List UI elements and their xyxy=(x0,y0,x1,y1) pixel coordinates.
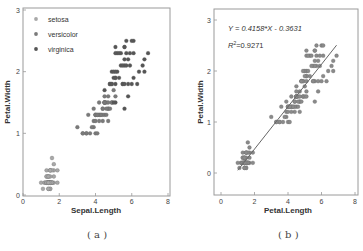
data-point xyxy=(305,49,309,53)
y-tick-label: 2 xyxy=(16,68,20,75)
data-point xyxy=(301,69,305,73)
data-point-setosa xyxy=(56,181,60,185)
data-point-virginica xyxy=(108,82,112,86)
data-point xyxy=(305,90,309,94)
data-point-virginica xyxy=(114,45,118,49)
data-point xyxy=(316,90,320,94)
data-point-virginica xyxy=(119,51,123,55)
data-point xyxy=(310,64,314,68)
data-point xyxy=(310,54,314,58)
data-point-versicolor xyxy=(85,131,89,135)
data-point xyxy=(320,79,324,83)
data-point xyxy=(294,90,298,94)
data-point-virginica xyxy=(110,70,114,74)
data-point-versicolor xyxy=(104,113,108,117)
data-point xyxy=(243,166,247,170)
data-point-versicolor xyxy=(112,88,116,92)
y-tick-label: 0 xyxy=(207,170,211,177)
data-point-versicolor xyxy=(86,113,90,117)
panel-b-x-axis-label: Petal.Length xyxy=(264,206,312,215)
data-point xyxy=(298,95,302,99)
data-point-virginica xyxy=(112,76,116,80)
legend-marker-setosa xyxy=(34,17,38,21)
data-point xyxy=(279,105,283,109)
data-point xyxy=(298,110,302,114)
y-tick-label: 1 xyxy=(16,130,20,137)
data-point xyxy=(281,120,285,124)
data-point-virginica xyxy=(146,51,150,55)
data-point-versicolor xyxy=(97,119,101,123)
panel-a-y-axis-label: Petal.Width xyxy=(3,80,12,124)
data-point-versicolor xyxy=(94,119,98,123)
panel-b-y-axis-label: Petal.Width xyxy=(196,80,205,124)
chart-canvas: 024680123 setosaversicolorvirginica Sepa… xyxy=(0,0,363,251)
figure: 024680123 setosaversicolorvirginica Sepa… xyxy=(0,0,363,251)
data-point xyxy=(269,115,273,119)
data-point-virginica xyxy=(126,57,130,61)
data-point xyxy=(300,79,304,83)
data-point xyxy=(246,141,250,145)
panel-a-points xyxy=(39,39,150,191)
data-point-virginica xyxy=(130,82,134,86)
data-point-virginica xyxy=(114,101,118,105)
data-point xyxy=(248,146,252,150)
data-point-virginica xyxy=(132,39,136,43)
data-point xyxy=(244,151,248,155)
data-point xyxy=(284,100,288,104)
x-tick-label: 4 xyxy=(286,198,290,205)
x-tick-label: 0 xyxy=(21,198,25,205)
data-point-setosa xyxy=(56,168,60,172)
data-point xyxy=(331,69,335,73)
data-point xyxy=(289,110,293,114)
data-point-virginica xyxy=(137,70,141,74)
data-point-virginica xyxy=(135,82,139,86)
data-point-virginica xyxy=(132,51,136,55)
data-point xyxy=(321,44,325,48)
data-point-setosa xyxy=(52,175,56,179)
data-point-versicolor xyxy=(101,107,105,111)
data-point-virginica xyxy=(117,76,121,80)
data-point xyxy=(311,79,315,83)
data-point-versicolor xyxy=(106,101,110,105)
panel-b-caption: ( b ) xyxy=(278,229,299,240)
x-tick-label: 2 xyxy=(57,198,61,205)
data-point xyxy=(335,54,339,58)
data-point xyxy=(283,115,287,119)
data-point xyxy=(306,69,310,73)
data-point-virginica xyxy=(128,64,132,68)
data-point-setosa xyxy=(50,156,54,160)
r-squared-value: =0.9271 xyxy=(236,41,263,50)
data-point-virginica xyxy=(132,76,136,80)
y-tick-label: 2 xyxy=(207,68,211,75)
data-point xyxy=(313,59,317,63)
data-point xyxy=(315,44,319,48)
data-point-virginica xyxy=(143,70,147,74)
regression-equation: Y = 0.4158*X - 0.3631 xyxy=(228,24,302,33)
x-tick-label: 6 xyxy=(320,198,324,205)
data-point xyxy=(330,64,334,68)
data-point-virginica xyxy=(124,39,128,43)
data-point-versicolor xyxy=(81,131,85,135)
data-point-versicolor xyxy=(101,119,105,123)
panel-b-regression: 024680123 Y = 0.4158*X - 0.3631 R2=0.927… xyxy=(196,9,358,215)
panel-a-x-axis-label: Sepal.Length xyxy=(71,206,121,215)
data-point-versicolor xyxy=(97,101,101,105)
panel-a-legend: setosaversicolorvirginica xyxy=(34,16,79,54)
data-point-virginica xyxy=(103,88,107,92)
legend-label-versicolor: versicolor xyxy=(48,31,79,38)
data-point xyxy=(294,84,298,88)
data-point-versicolor xyxy=(114,94,118,98)
data-point-setosa xyxy=(39,181,43,185)
data-point-versicolor xyxy=(108,107,112,111)
data-point-virginica xyxy=(123,45,127,49)
data-point-setosa xyxy=(52,162,56,166)
data-point xyxy=(318,54,322,58)
x-tick-label: 0 xyxy=(219,198,223,205)
data-point-versicolor xyxy=(106,94,110,98)
x-tick-label: 8 xyxy=(166,198,170,205)
regression-line xyxy=(238,45,337,170)
y-tick-label: 1 xyxy=(207,119,211,126)
legend-label-virginica: virginica xyxy=(48,46,74,54)
data-point-virginica xyxy=(121,82,125,86)
data-point-setosa xyxy=(46,175,50,179)
